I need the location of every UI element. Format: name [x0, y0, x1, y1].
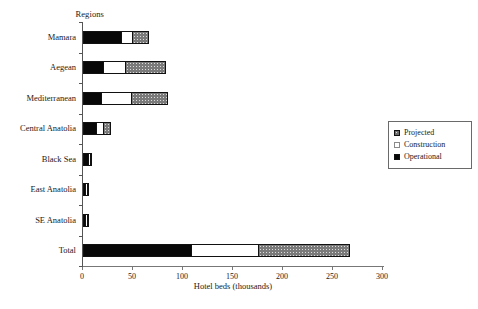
bar-segment-projected — [131, 92, 168, 105]
bar-segment-projected — [103, 122, 111, 135]
y-axis-tick — [79, 175, 83, 176]
bar-segment-construction — [96, 122, 103, 135]
bar-segment-operational — [83, 122, 96, 135]
y-axis-tick — [79, 22, 83, 23]
x-axis-tick — [182, 266, 183, 270]
legend-label: Projected — [404, 128, 434, 137]
stacked-bar — [83, 183, 89, 196]
legend-item: Operational — [394, 152, 466, 161]
bar-segment-projected — [132, 31, 149, 44]
stacked-bar — [83, 31, 149, 44]
x-axis-tick-label: 150 — [212, 272, 252, 281]
category-label: Black Sea — [42, 155, 76, 164]
y-axis-tick — [79, 53, 83, 54]
legend-item: Construction — [394, 140, 466, 149]
x-axis-tick-label: 50 — [112, 272, 152, 281]
x-axis-tick-label: 250 — [312, 272, 352, 281]
x-axis-tick — [132, 266, 133, 270]
bar-segment-projected — [90, 153, 92, 166]
bar-segment-operational — [83, 31, 121, 44]
stacked-bar — [83, 214, 89, 227]
x-axis-tick-label: 100 — [162, 272, 202, 281]
bar-row: Black Sea — [82, 153, 384, 166]
bar-segment-construction — [101, 92, 131, 105]
legend-label: Operational — [404, 152, 442, 161]
bar-segment-operational — [83, 244, 191, 257]
x-axis-tick — [332, 266, 333, 270]
x-axis-title: Hotel beds (thousands) — [82, 281, 384, 291]
y-axis-tick — [79, 144, 83, 145]
bar-segment-operational — [83, 92, 101, 105]
legend-swatch-operational-icon — [394, 154, 400, 160]
category-label: Total — [59, 246, 76, 255]
category-label: Mamara — [48, 33, 76, 42]
legend-item: Projected — [394, 128, 466, 137]
y-axis-tick — [79, 205, 83, 206]
bar-row: Mamara — [82, 31, 384, 44]
bar-row: SE Anatolia — [82, 214, 384, 227]
legend-swatch-projected-icon — [394, 130, 400, 136]
bar-row: Aegean — [82, 61, 384, 74]
stacked-bar — [83, 244, 350, 257]
y-axis-tick — [79, 236, 83, 237]
bar-segment-construction — [121, 31, 132, 44]
y-axis-tick — [79, 114, 83, 115]
bar-row: East Anatolia — [82, 183, 384, 196]
bar-segment-projected — [125, 61, 166, 74]
stacked-bar — [83, 61, 166, 74]
x-axis-tick — [232, 266, 233, 270]
bar-segment-construction — [103, 61, 125, 74]
chart-legend: ProjectedConstructionOperational — [388, 121, 472, 169]
bar-row: Mediterranean — [82, 92, 384, 105]
category-label: East Anatolia — [30, 185, 76, 194]
category-label: Mediterranean — [26, 94, 76, 103]
bar-segment-construction — [191, 244, 258, 257]
x-axis-tick-label: 300 — [362, 272, 402, 281]
y-axis-title: Regions — [0, 9, 104, 19]
x-axis-tick — [382, 266, 383, 270]
bar-segment-projected — [87, 214, 89, 227]
legend-label: Construction — [404, 140, 445, 149]
category-label: Central Anatolia — [20, 124, 76, 133]
x-axis-line — [82, 266, 384, 267]
horizontal-stacked-bar-chart: Regions MamaraAegeanMediterraneanCentral… — [0, 0, 478, 309]
bar-segment-operational — [83, 61, 103, 74]
x-axis-tick-label: 0 — [62, 272, 102, 281]
y-axis-tick — [79, 266, 83, 267]
bar-segment-projected — [258, 244, 350, 257]
category-label: Aegean — [50, 63, 76, 72]
stacked-bar — [83, 122, 111, 135]
category-label: SE Anatolia — [35, 216, 76, 225]
y-axis-tick — [79, 83, 83, 84]
plot-area: MamaraAegeanMediterraneanCentral Anatoli… — [82, 22, 384, 266]
legend-swatch-construction-icon — [394, 142, 400, 148]
bar-segment-projected — [87, 183, 89, 196]
stacked-bar — [83, 153, 92, 166]
stacked-bar — [83, 92, 168, 105]
x-axis-tick-label: 200 — [262, 272, 302, 281]
bar-row: Central Anatolia — [82, 122, 384, 135]
x-axis-tick — [282, 266, 283, 270]
bar-row: Total — [82, 244, 384, 257]
